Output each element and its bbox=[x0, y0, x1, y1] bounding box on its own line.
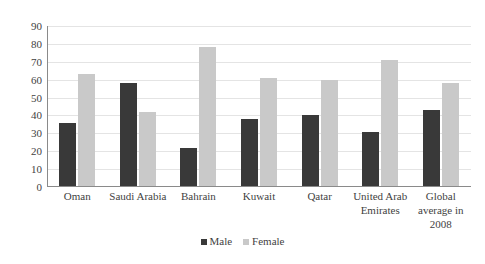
legend-swatch-icon bbox=[201, 239, 207, 245]
x-axis-tick-label: Qatar bbox=[289, 190, 350, 231]
bar-groups bbox=[47, 26, 471, 187]
y-axis-tick-label: 20 bbox=[31, 146, 42, 157]
y-axis-tick-labels: 9080706050403020100 bbox=[12, 26, 42, 187]
y-axis-tick-label: 90 bbox=[31, 21, 42, 32]
legend-swatch-icon bbox=[243, 239, 249, 245]
bar-female bbox=[199, 47, 216, 187]
legend-item-male[interactable]: Male bbox=[201, 236, 233, 247]
bar-group bbox=[229, 26, 290, 187]
x-axis-tick-label: Kuwait bbox=[229, 190, 290, 231]
bar-group bbox=[410, 26, 471, 187]
bar-male bbox=[302, 115, 319, 187]
legend-label: Male bbox=[210, 236, 233, 247]
x-axis-tick-labels: OmanSaudi ArabiaBahrainKuwaitQatarUnited… bbox=[47, 190, 471, 231]
bar-female bbox=[321, 80, 338, 187]
y-axis-tick-label: 80 bbox=[31, 38, 42, 49]
bar-female bbox=[442, 83, 459, 187]
x-axis-tick-label: United Arab Emirates bbox=[350, 190, 411, 231]
legend-label: Female bbox=[252, 236, 284, 247]
y-axis-tick-label: 70 bbox=[31, 56, 42, 67]
bar-male bbox=[120, 83, 137, 187]
bar-group bbox=[108, 26, 169, 187]
y-axis-line bbox=[47, 26, 48, 187]
x-axis-tick-label: Bahrain bbox=[168, 190, 229, 231]
legend-item-female[interactable]: Female bbox=[243, 236, 284, 247]
bar-female bbox=[381, 60, 398, 187]
y-axis-tick-label: 30 bbox=[31, 128, 42, 139]
plot-area bbox=[47, 26, 471, 187]
bar-male bbox=[59, 123, 76, 187]
bar-group bbox=[289, 26, 350, 187]
bar-male bbox=[423, 110, 440, 187]
y-axis-tick-label: 60 bbox=[31, 74, 42, 85]
chart-legend: MaleFemale bbox=[0, 236, 485, 247]
bar-female bbox=[260, 78, 277, 187]
bar-female bbox=[139, 112, 156, 187]
y-axis-tick-label: 50 bbox=[31, 92, 42, 103]
bar-group bbox=[47, 26, 108, 187]
x-axis-tick-label: Saudi Arabia bbox=[108, 190, 169, 231]
bar-group bbox=[168, 26, 229, 187]
bar-male bbox=[362, 132, 379, 187]
y-axis-tick-label: 40 bbox=[31, 110, 42, 121]
x-axis-tick-label: Global average in 2008 bbox=[410, 190, 471, 231]
bar-female bbox=[78, 74, 95, 187]
bar-group bbox=[350, 26, 411, 187]
y-axis-tick-label: 10 bbox=[31, 164, 42, 175]
x-axis-line bbox=[47, 186, 471, 187]
y-axis-tick-label: 0 bbox=[37, 182, 43, 193]
bar-chart: 9080706050403020100 OmanSaudi ArabiaBahr… bbox=[0, 0, 485, 264]
x-axis-tick-label: Oman bbox=[47, 190, 108, 231]
bar-male bbox=[241, 119, 258, 187]
bar-male bbox=[180, 148, 197, 187]
